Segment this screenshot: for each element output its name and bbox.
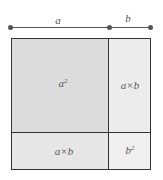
square-diagram: a2 a×b a×b b2	[11, 38, 151, 170]
dimension-dot-right	[148, 25, 153, 30]
region-b-squared-label: b2	[126, 144, 135, 157]
dimension-label-b: b	[125, 12, 131, 24]
region-bottom-left-label: a×b	[55, 145, 73, 157]
region-a-squared-label: a2	[59, 77, 68, 90]
region-b-squared: b2	[109, 133, 150, 169]
region-bottom-left-product: a×b	[12, 133, 109, 169]
dimension-dot-left	[8, 25, 13, 30]
region-top-right-label: a×b	[121, 79, 139, 91]
dimension-dot-middle	[107, 25, 112, 30]
region-top-right-product: a×b	[109, 39, 150, 133]
region-a-squared: a2	[12, 39, 109, 133]
dimension-line	[10, 27, 151, 28]
dimension-label-a: a	[55, 14, 61, 26]
